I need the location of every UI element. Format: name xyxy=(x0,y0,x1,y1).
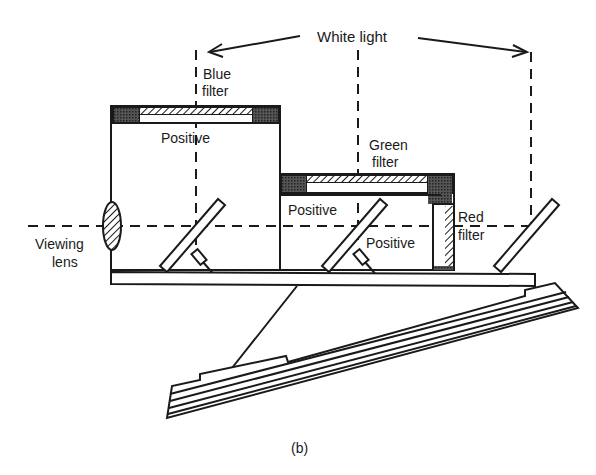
viewing-lens-label-line1: Viewing xyxy=(35,236,84,252)
green-filter-label-line1: Green xyxy=(369,137,408,153)
folding-stand xyxy=(167,283,578,418)
viewing-lens xyxy=(103,202,121,250)
red-filter-panel xyxy=(433,204,454,270)
diagram-drawing xyxy=(0,0,596,475)
white-light-label: White light xyxy=(317,29,387,45)
green-filter-label-line2: filter xyxy=(372,154,398,170)
positive-label-green: Positive xyxy=(288,202,337,218)
blue-filter-label-line1: Blue xyxy=(203,66,231,82)
positive-label-red: Positive xyxy=(366,235,415,251)
figure-caption: (b) xyxy=(291,440,308,456)
diagram-canvas: White light Blue filter Positive Green f… xyxy=(0,0,596,475)
base-plate xyxy=(111,272,535,286)
red-filter-label-line2: filter xyxy=(458,227,484,243)
positive-label-blue: Positive xyxy=(161,130,210,146)
viewing-lens-label-line2: lens xyxy=(52,254,78,270)
red-filter-label-line1: Red xyxy=(458,209,484,225)
blue-filter-label-line2: filter xyxy=(202,83,228,99)
